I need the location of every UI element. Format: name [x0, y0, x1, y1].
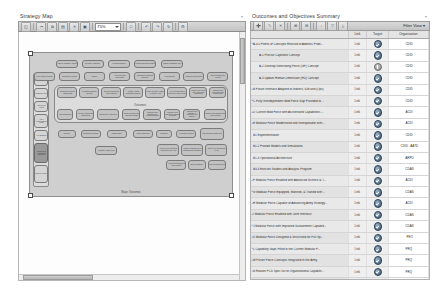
map-node[interactable]: Leadership [156, 130, 172, 138]
table-row[interactable]: +J Modular Force with Improved Sustainme… [251, 221, 429, 232]
table-row[interactable]: +A-4.0 Points of Concepts Revised to Add… [251, 39, 429, 50]
map-node[interactable]: Mobility [84, 72, 105, 81]
outcome-node[interactable]: Modular Force Capable of Advancing Army … [183, 109, 200, 120]
table-row[interactable]: +K Modular Force Designed & Structured f… [251, 232, 429, 243]
table-row[interactable]: +B Future Interface Adapted to Indirect,… [251, 84, 429, 95]
cell-link[interactable]: Link [348, 278, 366, 280]
table-row[interactable]: +M Future Force Concepts Integrated in t… [251, 255, 429, 266]
table-row[interactable]: +N Realize FCS Spin Out to Organizationa… [251, 266, 429, 277]
cell-target[interactable] [366, 118, 389, 129]
collapse-all-button[interactable]: ⊟ [301, 21, 311, 31]
map-node[interactable]: Personnel Systems [176, 130, 196, 138]
outcome-node[interactable]: Future Interface Adapted to Indirect Fir… [145, 87, 165, 98]
cell-link[interactable]: Link [348, 73, 366, 84]
cell-organization[interactable]: PRQ [389, 278, 429, 280]
cell-target[interactable] [366, 95, 389, 106]
expand-all-button[interactable]: ⊞ [290, 21, 300, 31]
cell-organization[interactable]: ARPD [389, 152, 429, 163]
cell-name[interactable]: +A-4.0 Points of Concepts Revised to Add… [251, 39, 348, 50]
outcome-node[interactable]: Execute Studies and Analysis Program [122, 109, 140, 120]
map-node[interactable]: Force Design Concept [34, 72, 55, 81]
table-row[interactable]: +G Modular Force Equipped, Manned, & Tra… [251, 187, 429, 198]
cell-target[interactable] [366, 84, 389, 95]
column-header-organization[interactable]: Organization [389, 31, 429, 39]
cell-name[interactable]: +K Modular Force Designed & Structured f… [251, 232, 348, 243]
cell-name[interactable]: B3.4 Execute Studies and Analysis Progra… [251, 164, 348, 175]
cell-name[interactable]: +L Capability Gaps Filled in the Current… [251, 244, 348, 255]
table-row[interactable]: A-1 Precise Capstone ConceptLinkCDID [251, 50, 429, 61]
map-node[interactable]: Joint Interdependence [208, 160, 226, 170]
outcome-node[interactable]: Experimentation [57, 109, 73, 120]
cell-target[interactable] [366, 152, 389, 163]
cell-organization[interactable]: ACDI [389, 175, 429, 186]
save-tool-button[interactable]: ▣ [80, 22, 90, 32]
cell-link[interactable]: Link [348, 118, 366, 129]
edit-item-button[interactable]: ✎ [264, 21, 274, 31]
cell-target[interactable] [366, 255, 389, 266]
cell-organization[interactable]: CDID [389, 84, 429, 95]
cell-name[interactable]: +I Modular Force Enabled with Joint Inte… [251, 209, 348, 220]
rail-node[interactable]: Operational Readiness Objectives [34, 143, 48, 163]
table-row[interactable]: +I Modular Force Enabled with Joint Inte… [251, 209, 429, 220]
cell-link[interactable]: Link [348, 164, 366, 175]
cell-organization[interactable]: CDID [389, 73, 429, 84]
cell-organization[interactable]: CDAS [389, 187, 429, 198]
canvas-vertical-scrollbar[interactable] [239, 32, 245, 280]
fit-page-button[interactable]: □ [126, 22, 136, 32]
outcome-node[interactable]: Modular Force Enabled with Advanced Scie… [143, 109, 161, 120]
cell-organization[interactable]: PRQ [389, 244, 429, 255]
cell-organization[interactable]: ACDI [389, 198, 429, 209]
map-node[interactable]: Integrated Capabilities Development [166, 160, 186, 170]
cell-target[interactable] [366, 209, 389, 220]
outcome-node[interactable]: Current Fleet Force with Accelerated Cap… [189, 87, 207, 98]
map-node[interactable]: Facilities and Infrastructure [200, 128, 224, 140]
outcome-node[interactable]: Modular Force Equipped, Manned & Trained [164, 109, 180, 120]
map-node[interactable]: Capability Gaps Filled [95, 146, 117, 155]
map-node[interactable]: Talent Management System [207, 72, 228, 81]
cell-organization[interactable]: CDID [389, 50, 429, 61]
table-row[interactable]: B1.2 Provide Models and SimulationsLinkC… [251, 141, 429, 152]
resize-handle-nw[interactable] [28, 51, 33, 56]
outcome-node[interactable]: Provide Models and Simulations [76, 109, 94, 120]
cell-link[interactable]: Link [348, 141, 366, 152]
map-node[interactable]: Decision Advantage [82, 60, 104, 68]
rail-node[interactable]: Force Modernization Goals [34, 114, 48, 128]
map-node[interactable]: Information Advantage Capability [134, 72, 155, 81]
cell-link[interactable]: Link [348, 232, 366, 243]
map-node[interactable]: Realize FCS Spin Out to Organizational C… [181, 144, 203, 156]
cell-link[interactable]: Link [348, 107, 366, 118]
resize-handle-ne[interactable] [229, 51, 234, 56]
table-row[interactable]: B3.4 Execute Studies and Analysis Progra… [251, 164, 429, 175]
cell-name[interactable]: +G Modular Force Equipped, Manned, & Tra… [251, 187, 348, 198]
rail-node[interactable]: Strategy Inputs [34, 165, 48, 183]
cell-link[interactable]: Link [348, 152, 366, 163]
map-node[interactable]: Future Force Concepts Integrated in the … [157, 144, 179, 156]
map-node[interactable]: Organization Design [81, 130, 101, 138]
cell-target[interactable] [366, 198, 389, 209]
cell-name[interactable]: +F Modular Force Enabled with Advanced S… [251, 175, 348, 186]
column-header-link[interactable]: Link [348, 31, 366, 39]
cell-organization[interactable]: CDID - AATD [389, 141, 429, 152]
table-row[interactable]: B1.3 Operational ArchitectureLinkARPD [251, 152, 429, 163]
cell-link[interactable]: Link [348, 266, 366, 277]
cell-name[interactable]: A-2 Develop Generating Force (GF) Concep… [251, 61, 348, 72]
map-node[interactable]: Integrated Effects [108, 60, 130, 68]
table-row[interactable]: +C Fully Interdependent Mod Force Gap Pr… [251, 95, 429, 106]
rail-node[interactable]: Key Enablers [34, 130, 48, 141]
paste-tool-button[interactable]: ▤ [58, 22, 68, 32]
cell-target[interactable] [366, 164, 389, 175]
table-row[interactable]: B1 ExperimentationLinkCDID [251, 130, 429, 141]
cell-target[interactable] [366, 107, 389, 118]
scrollbar-thumb[interactable] [240, 38, 245, 84]
rail-node[interactable]: Joint Force Focus [34, 101, 48, 112]
cell-name[interactable]: +E Modular Force Modernized and Interope… [251, 118, 348, 129]
export-button[interactable]: ⤓ [338, 21, 348, 31]
strategy-map-diagram[interactable]: Strategic Vision Mission Drivers Joint F… [29, 52, 233, 197]
cell-link[interactable]: Link [348, 244, 366, 255]
rail-node[interactable]: Mission Drivers [34, 88, 48, 99]
outcome-node[interactable]: Fully Interdependent Joint Force Gap Pro… [167, 87, 187, 98]
cell-name[interactable]: B1.3 Operational Architecture [251, 152, 348, 163]
outcome-node[interactable]: Modular Force Modernized and Interoperab… [209, 87, 226, 98]
cell-link[interactable]: Link [348, 187, 366, 198]
cell-name[interactable]: A-1 Precise Capstone Concept [251, 50, 348, 61]
